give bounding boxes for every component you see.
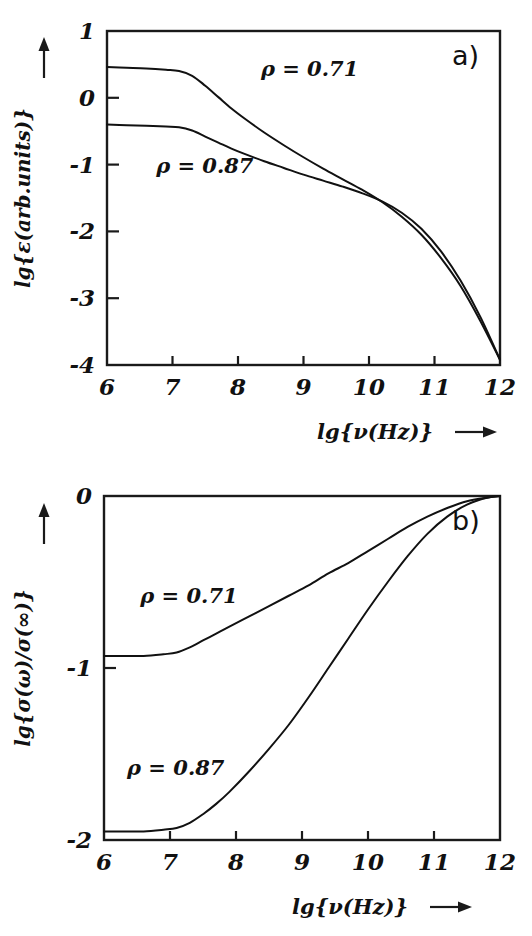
plot-a-svg: 678910111210-1-2-3-4ρ = 0.71ρ = 0.87a)lg…: [0, 0, 532, 468]
x-tick-label-a-3: 9: [295, 373, 311, 400]
y-tick-label-a-4: -3: [69, 284, 95, 311]
x-tick-label-a-6: 12: [484, 373, 516, 400]
x-tick-label-a-2: 8: [229, 373, 246, 400]
y-tick-label-b-0: 0: [76, 482, 92, 509]
x-tick-label-b-2: 8: [227, 848, 244, 875]
y-tick-label-a-3: -2: [69, 217, 95, 244]
curve-b-2: [104, 496, 500, 832]
x-axis-label-a: lg{ν(Hz)}: [317, 419, 433, 444]
curve-a-1: [107, 67, 500, 360]
curve-label-b-1: ρ = 0.71: [139, 583, 237, 608]
x-axis-arrow-icon-b: [458, 902, 472, 913]
curve-b-1: [104, 496, 500, 656]
plot-b-svg: 67891011120-1-2ρ = 0.71ρ = 0.87b)lg{ν(Hz…: [0, 468, 532, 936]
y-tick-label-b-2: -2: [66, 826, 92, 853]
y-tick-label-a-1: 0: [79, 84, 95, 111]
y-tick-label-b-1: -1: [66, 654, 92, 681]
x-tick-label-b-6: 12: [484, 848, 516, 875]
x-tick-label-b-1: 7: [162, 848, 178, 875]
x-axis-arrow-icon-a: [483, 427, 497, 438]
curve-label-a-2: ρ = 0.87: [155, 153, 254, 178]
curve-label-b-2: ρ = 0.87: [126, 755, 225, 780]
figure-container: 678910111210-1-2-3-4ρ = 0.71ρ = 0.87a)lg…: [0, 0, 532, 936]
y-axis-arrow-icon-a: [39, 37, 50, 51]
plot-frame-b: [104, 496, 500, 840]
chart-panel-b: 67891011120-1-2ρ = 0.71ρ = 0.87b)lg{ν(Hz…: [0, 468, 532, 936]
x-tick-label-b-5: 11: [418, 848, 450, 875]
y-axis-label-b: lg{σ(ω)/σ(∞)}: [11, 589, 35, 747]
plot-frame-a: [107, 31, 500, 365]
x-tick-label-a-5: 11: [418, 373, 450, 400]
x-tick-label-a-0: 6: [99, 373, 115, 400]
curve-label-a-1: ρ = 0.71: [260, 56, 358, 81]
panel-id-a: a): [452, 40, 479, 71]
y-tick-label-a-5: -4: [69, 351, 95, 378]
x-tick-label-b-0: 6: [96, 848, 112, 875]
x-tick-label-b-3: 9: [294, 848, 310, 875]
y-tick-label-a-2: -1: [69, 151, 95, 178]
x-tick-label-a-1: 7: [164, 373, 180, 400]
y-axis-arrow-icon-b: [39, 503, 50, 517]
y-axis-label-a: lg{ε(arb.units)}: [11, 108, 35, 288]
chart-panel-a: 678910111210-1-2-3-4ρ = 0.71ρ = 0.87a)lg…: [0, 0, 532, 468]
panel-id-b: b): [452, 505, 480, 536]
x-axis-label-b: lg{ν(Hz)}: [292, 894, 408, 919]
x-tick-label-a-4: 10: [353, 373, 385, 400]
y-tick-label-a-0: 1: [79, 17, 95, 44]
x-tick-label-b-4: 10: [352, 848, 384, 875]
